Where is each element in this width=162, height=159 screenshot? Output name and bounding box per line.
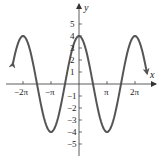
y-tick-label-neg4: −4 [67, 127, 77, 137]
y-tick-label-5: 5 [70, 19, 75, 29]
y-tick-label-neg1: −1 [67, 91, 77, 101]
y-tick-label-4: 4 [70, 31, 75, 41]
cosine-graph: y x −2π −π π 2π 5 4 3 2 1 −1 −2 −3 −4 −5 [0, 0, 162, 159]
x-tick-label-neg-pi: −π [45, 87, 55, 97]
x-axis-label: x [149, 69, 155, 80]
y-axis-label: y [83, 2, 89, 13]
y-tick-label-2: 2 [70, 55, 75, 65]
x-tick-label-neg-2pi: −2π [14, 87, 29, 97]
y-tick-label-3: 3 [70, 43, 75, 53]
x-tick-label-2pi: 2π [130, 87, 140, 97]
y-tick-label-neg3: −3 [67, 115, 77, 125]
chart-svg: y x −2π −π π 2π 5 4 3 2 1 −1 −2 −3 −4 −5 [0, 0, 162, 159]
y-tick-label-neg2: −2 [67, 103, 77, 113]
y-tick-label-neg5: −5 [67, 139, 77, 149]
y-tick-label-1: 1 [70, 67, 75, 77]
x-tick-label-pi: π [104, 87, 109, 97]
